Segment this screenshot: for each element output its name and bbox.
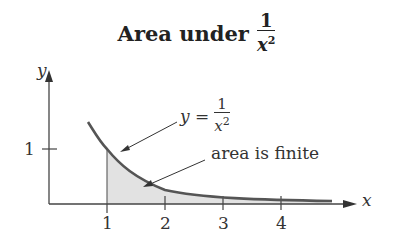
- x-tick-label: 4: [276, 213, 287, 233]
- area-label: area is finite: [211, 143, 319, 163]
- y-axis-label: y: [37, 60, 47, 80]
- x-axis-arrow-icon: [343, 200, 357, 208]
- function-label: y = 1 x2: [180, 97, 230, 134]
- y-tick-label: 1: [24, 139, 35, 159]
- x-tick-label: 1: [102, 213, 113, 233]
- x-tick-label: 3: [218, 213, 229, 233]
- x-axis-label: x: [362, 190, 372, 210]
- x-tick-label: 2: [160, 213, 171, 233]
